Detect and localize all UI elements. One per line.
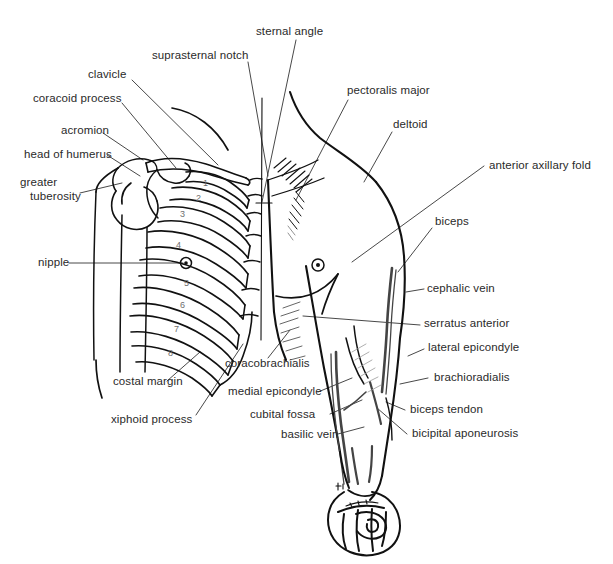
label-nipple: nipple [38,256,69,270]
label-anterior-axillary-fold: anterior axillary fold [489,159,591,173]
label-basilic-vein: basilic vein [281,428,338,442]
bicipital-aponeurosis-line [344,392,366,410]
pectoralis-digitations [289,192,304,229]
rib-number-6: 6 [180,300,185,310]
label-bicipital-aponeurosis: bicipital aponeurosis [412,427,518,441]
rib-number-2: 2 [196,193,201,203]
label-medial-epicondyle: medial epicondyle [228,385,322,399]
serratus-digitations [280,302,305,360]
label-deltoid: deltoid [393,118,428,132]
label-lateral-epicondyle: lateral epicondyle [428,341,519,355]
rib-number-7: 7 [174,324,179,334]
label-coracoid-process: coracoid process [33,92,122,106]
anatomy-illustration [0,0,613,564]
label-greater-tuberosity-line2: tuberosity [30,190,81,204]
wrist-mark [336,483,343,490]
anatomy-figure: sternal angle suprasternal notch clavicl… [0,0,613,564]
sternum-body [240,178,262,316]
rib-number-5: 5 [184,278,189,288]
label-cubital-fossa: cubital fossa [250,408,315,422]
forearm-tendons [352,446,372,484]
label-pectoralis-major: pectoralis major [347,84,430,98]
label-biceps-tendon: biceps tendon [410,403,483,417]
sternum-midline [261,98,262,340]
rib-number-4: 4 [176,240,181,250]
wrist-crease [348,490,374,496]
label-greater-tuberosity-line1: greater [20,176,57,188]
scapula-acromion [113,159,191,218]
label-sternal-angle: sternal angle [256,25,323,39]
label-biceps: biceps [435,215,469,229]
label-clavicle: clavicle [88,68,127,82]
label-greater-tuberosity: greater tuberosity [20,176,98,203]
label-head-of-humerus: head of humerus [24,148,112,162]
label-costal-margin: costal margin [113,375,183,389]
biceps-muscle [346,326,368,384]
label-xiphoid-process: xiphoid process [111,413,192,427]
cubital-fossa-hatching [352,344,381,392]
label-serratus-anterior: serratus anterior [424,317,509,331]
pectoralis-faint-streaks [288,226,295,240]
rib-number-3: 3 [180,209,185,219]
rib-number-8: 8 [168,348,173,358]
label-cephalic-vein: cephalic vein [427,282,495,296]
anterior-axillary-fold-line [322,274,338,314]
label-brachioradialis: brachioradialis [434,371,510,385]
label-acromion: acromion [61,124,109,138]
humerus-head [112,183,158,229]
label-coracobrachialis: coracobrachialis [225,357,310,371]
pectoralis-hatching [274,158,312,192]
label-suprasternal-notch: suprasternal notch [152,49,248,63]
rib-number-1: 1 [203,178,208,188]
nipple-marker-right [312,259,324,271]
